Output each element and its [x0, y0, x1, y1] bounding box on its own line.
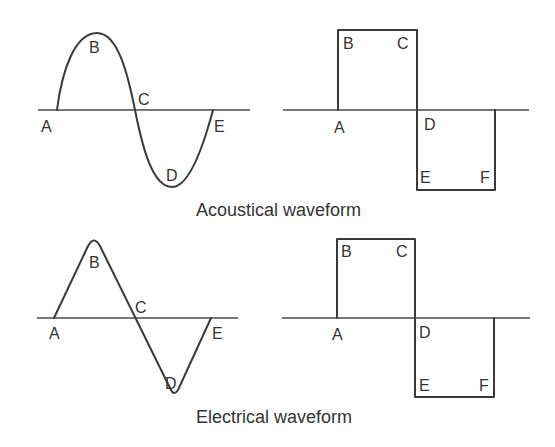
point-label-c: C — [397, 35, 409, 52]
electric-square-panel: A B C D E F — [282, 239, 530, 397]
point-label-e: E — [212, 325, 223, 342]
point-label-b: B — [89, 39, 100, 56]
point-label-e: E — [419, 377, 430, 394]
point-label-d: D — [166, 167, 178, 184]
point-label-c: C — [135, 299, 147, 316]
point-label-c: C — [396, 243, 408, 260]
point-label-a: A — [49, 325, 60, 342]
point-label-c: C — [138, 91, 150, 108]
point-label-f: F — [480, 169, 490, 186]
triangle-waveform — [54, 241, 211, 394]
point-label-a: A — [332, 326, 343, 343]
point-label-e: E — [214, 118, 225, 135]
point-label-b: B — [343, 35, 354, 52]
acoustic-sine-panel: A B C D E — [38, 33, 250, 187]
acoustic-square-panel: A B C D E F — [283, 30, 529, 190]
point-label-d: D — [424, 116, 436, 133]
point-label-e: E — [420, 169, 431, 186]
point-label-a: A — [41, 118, 52, 135]
point-label-a: A — [334, 119, 345, 136]
point-label-b: B — [341, 243, 352, 260]
point-label-f: F — [479, 377, 489, 394]
point-label-d: D — [419, 324, 431, 341]
point-label-d: D — [165, 375, 177, 392]
point-label-b: B — [89, 254, 100, 271]
caption-acoustical: Acoustical waveform — [196, 200, 361, 220]
electric-triangle-panel: A B C D E — [37, 241, 238, 394]
waveform-diagram: A B C D E A B C D E F Acoustical wavefor… — [0, 0, 555, 447]
caption-electrical: Electrical waveform — [196, 407, 352, 427]
